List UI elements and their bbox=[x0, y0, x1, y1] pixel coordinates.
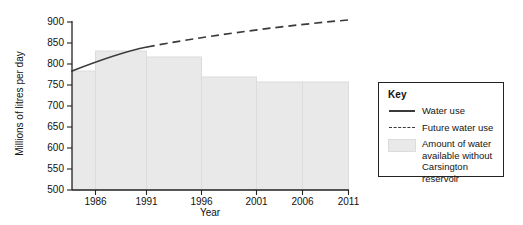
bar-segment bbox=[257, 82, 303, 190]
x-tick-label: 1996 bbox=[182, 196, 222, 207]
y-tick-label: 700 bbox=[38, 100, 64, 111]
x-axis-title: Year bbox=[180, 207, 240, 218]
legend-item-label: Future water use bbox=[422, 122, 493, 134]
y-tick-label: 550 bbox=[38, 163, 64, 174]
bar-segment bbox=[202, 77, 257, 190]
bar-segment bbox=[96, 51, 147, 190]
y-axis-ticks bbox=[67, 22, 72, 190]
x-tick-label: 1991 bbox=[127, 196, 167, 207]
future-water-use-line bbox=[147, 20, 348, 47]
bar-segment bbox=[73, 71, 96, 190]
solid-line-icon bbox=[388, 105, 416, 116]
bar-segment bbox=[147, 57, 202, 190]
legend-title: Key bbox=[388, 89, 503, 100]
y-axis-title: Millions of litres per day bbox=[14, 29, 25, 179]
x-tick-label: 2006 bbox=[283, 196, 323, 207]
y-tick-label: 900 bbox=[38, 16, 64, 27]
y-tick-label: 650 bbox=[38, 121, 64, 132]
y-tick-label: 600 bbox=[38, 142, 64, 153]
x-tick-label: 2011 bbox=[329, 196, 369, 207]
dashed-line-icon bbox=[388, 122, 416, 133]
bar-series-water-available bbox=[73, 51, 349, 190]
legend-item-label: Water use bbox=[422, 105, 465, 117]
y-tick-label: 500 bbox=[38, 184, 64, 195]
x-axis-ticks bbox=[96, 190, 349, 195]
x-tick-label: 1986 bbox=[76, 196, 116, 207]
grey-swatch-icon bbox=[388, 139, 416, 152]
bar-segment bbox=[303, 82, 349, 190]
legend-item-label: Amount of water available without Carsin… bbox=[422, 138, 503, 184]
y-tick-label: 750 bbox=[38, 79, 64, 90]
x-tick-label: 2001 bbox=[237, 196, 277, 207]
legend-item-water-use: Water use bbox=[388, 105, 503, 117]
legend-box: Key Water use Future water use Amount of… bbox=[378, 82, 504, 177]
y-tick-label: 850 bbox=[38, 37, 64, 48]
legend-item-future-water-use: Future water use bbox=[388, 122, 503, 134]
y-tick-label: 800 bbox=[38, 58, 64, 69]
chart-container: 900 850 800 750 700 650 600 550 500 1986… bbox=[0, 0, 523, 225]
legend-item-water-available: Amount of water available without Carsin… bbox=[388, 138, 503, 184]
